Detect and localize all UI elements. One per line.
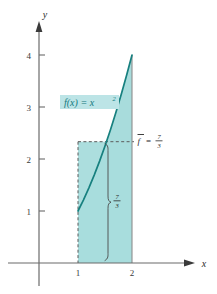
x-axis-name: x [201, 258, 207, 269]
average-value-rectangle [78, 142, 132, 263]
x-tick-label-1: 1 [76, 268, 81, 278]
average-value-denominator: 3 [156, 142, 161, 149]
x-tick-label-2-text: 2 [130, 268, 135, 278]
y-tick-label-4-text: 4 [27, 51, 32, 61]
y-tick-label-3: 3 [27, 103, 32, 113]
average-value-label: f = 7 3 [138, 133, 163, 149]
y-tick-label-2: 2 [27, 155, 32, 165]
average-value-numerator: 7 [157, 133, 161, 140]
y-tick-label-4: 4 [27, 51, 32, 61]
y-axis-name: y [42, 9, 48, 20]
x-tick-label-2: 2 [130, 268, 135, 278]
average-value-equals: = [146, 136, 151, 146]
x-tick-label-1-text: 1 [76, 268, 81, 278]
function-label: f(x) = x 2 [60, 95, 119, 109]
function-label-text: f(x) = x [64, 97, 95, 109]
y-tick-label-3-text: 3 [27, 103, 32, 113]
mean-value-theorem-figure: 1 2 3 4 1 2 y x f(x) = x 2 f = 7 3 7 [0, 0, 217, 294]
average-value-f-symbol: f [138, 136, 142, 146]
y-axis-ticks [39, 55, 45, 211]
y-tick-label-1: 1 [27, 207, 32, 217]
y-tick-label-1-text: 1 [27, 207, 32, 217]
y-tick-label-2-text: 2 [27, 155, 32, 165]
